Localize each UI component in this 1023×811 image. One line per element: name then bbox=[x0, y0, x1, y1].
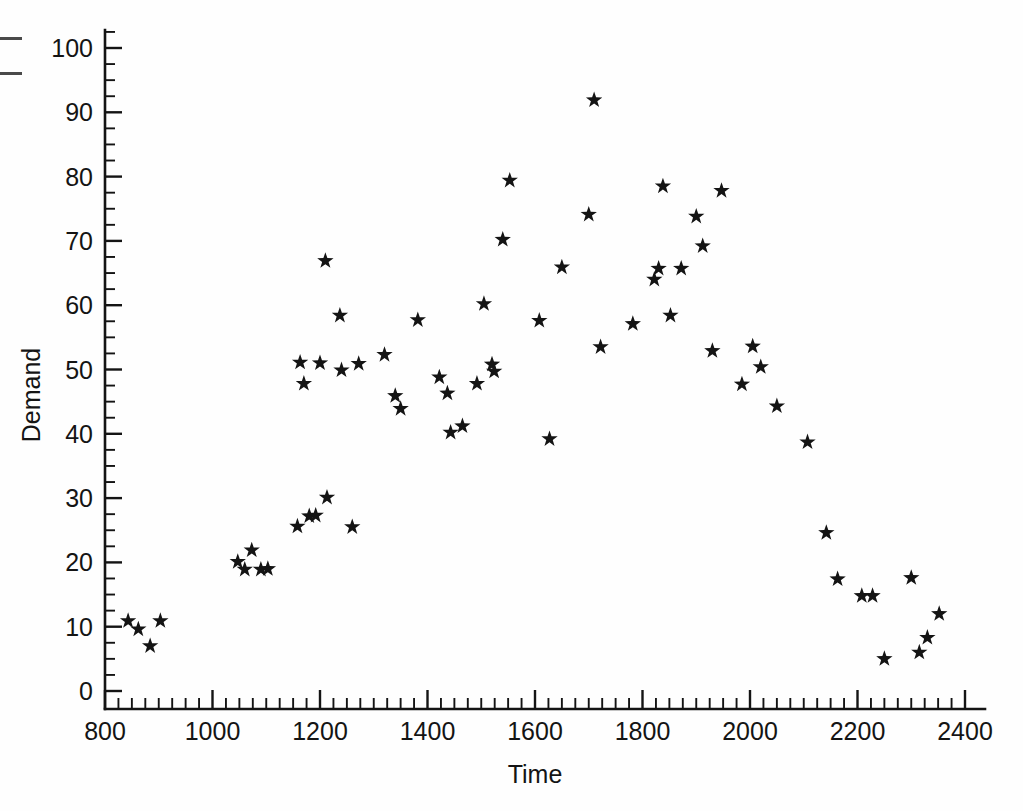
data-point-marker bbox=[476, 295, 492, 310]
data-point-marker bbox=[152, 612, 168, 627]
data-point-marker bbox=[502, 172, 518, 187]
data-point-marker bbox=[655, 178, 671, 193]
data-point-marker bbox=[130, 621, 146, 636]
data-point-marker bbox=[745, 338, 761, 353]
data-point-marker bbox=[704, 342, 720, 357]
y-tick-label: 100 bbox=[51, 34, 93, 62]
data-point-marker bbox=[799, 434, 815, 449]
data-point-marker bbox=[911, 644, 927, 659]
x-tick-label: 1600 bbox=[507, 717, 563, 745]
data-point-marker bbox=[392, 400, 408, 415]
y-tick-label: 0 bbox=[79, 677, 93, 705]
data-point-marker bbox=[442, 424, 458, 439]
x-axis: 80010001200140016001800200022002400 bbox=[84, 690, 993, 745]
y-tick-label: 20 bbox=[65, 548, 93, 576]
y-tick-label: 80 bbox=[65, 163, 93, 191]
data-point-marker bbox=[592, 338, 608, 353]
scatter-plot: 0102030405060708090100 80010001200140016… bbox=[0, 0, 1023, 811]
data-point-marker bbox=[387, 387, 403, 402]
data-point-marker bbox=[317, 252, 333, 267]
data-point-marker bbox=[919, 629, 935, 644]
data-point-marker bbox=[312, 355, 328, 370]
y-axis-title: Demand bbox=[17, 348, 45, 443]
data-point-marker bbox=[319, 489, 335, 504]
data-point-marker bbox=[486, 363, 502, 378]
x-tick-label: 1800 bbox=[615, 717, 671, 745]
x-tick-label: 1000 bbox=[185, 717, 241, 745]
y-tick-label: 30 bbox=[65, 484, 93, 512]
x-tick-label: 2400 bbox=[937, 717, 993, 745]
data-point-marker bbox=[625, 315, 641, 330]
data-point-marker bbox=[876, 650, 892, 665]
data-point-marker bbox=[769, 398, 785, 413]
data-point-marker bbox=[344, 518, 360, 533]
data-point-marker bbox=[753, 358, 769, 373]
data-point-marker bbox=[292, 354, 308, 369]
x-tick-label: 1400 bbox=[400, 717, 456, 745]
chart-svg: 0102030405060708090100 80010001200140016… bbox=[0, 0, 1023, 811]
data-point-marker bbox=[376, 346, 392, 361]
data-point-marker bbox=[289, 518, 305, 533]
data-point-marker bbox=[332, 307, 348, 322]
data-point-marker bbox=[541, 430, 557, 445]
y-tick-label: 40 bbox=[65, 420, 93, 448]
data-point-marker bbox=[688, 208, 704, 223]
data-point-marker bbox=[554, 259, 570, 274]
data-point-marker bbox=[818, 524, 834, 539]
x-tick-label: 2200 bbox=[830, 717, 886, 745]
x-tick-label: 1200 bbox=[292, 717, 348, 745]
data-point-marker bbox=[829, 571, 845, 586]
data-point-marker bbox=[410, 311, 426, 326]
x-tick-label: 800 bbox=[84, 717, 126, 745]
data-point-marker bbox=[142, 637, 158, 652]
data-points bbox=[120, 92, 947, 666]
data-point-marker bbox=[495, 231, 511, 246]
chart-page: 0102030405060708090100 80010001200140016… bbox=[0, 0, 1023, 811]
data-point-marker bbox=[333, 362, 349, 377]
data-point-marker bbox=[586, 92, 602, 107]
y-tick-label: 60 bbox=[65, 291, 93, 319]
data-point-marker bbox=[695, 237, 711, 252]
data-point-marker bbox=[713, 182, 729, 197]
y-tick-label: 90 bbox=[65, 98, 93, 126]
data-point-marker bbox=[431, 369, 447, 384]
data-point-marker bbox=[650, 260, 666, 275]
data-point-marker bbox=[439, 385, 455, 400]
data-point-marker bbox=[351, 355, 367, 370]
data-point-marker bbox=[673, 260, 689, 275]
data-point-marker bbox=[244, 542, 260, 557]
data-point-marker bbox=[734, 376, 750, 391]
data-point-marker bbox=[662, 307, 678, 322]
data-point-marker bbox=[469, 375, 485, 390]
data-point-marker bbox=[120, 612, 136, 627]
data-point-marker bbox=[581, 206, 597, 221]
y-tick-label: 50 bbox=[65, 356, 93, 384]
y-tick-label: 70 bbox=[65, 227, 93, 255]
data-point-marker bbox=[931, 605, 947, 620]
data-point-marker bbox=[296, 375, 312, 390]
y-tick-label: 10 bbox=[65, 613, 93, 641]
data-point-marker bbox=[531, 312, 547, 327]
data-point-marker bbox=[903, 569, 919, 584]
x-axis-title: Time bbox=[508, 760, 563, 788]
y-axis: 0102030405060708090100 bbox=[51, 30, 122, 709]
x-tick-label: 2000 bbox=[722, 717, 778, 745]
